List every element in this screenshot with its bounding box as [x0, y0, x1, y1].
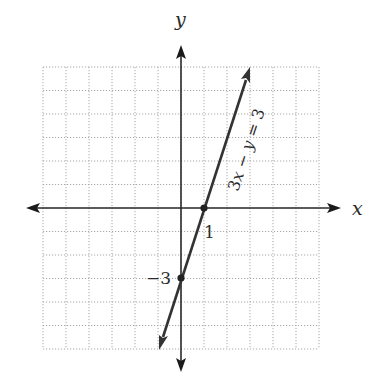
line-bottom-arrow-icon — [159, 335, 168, 350]
y-intercept-point — [177, 274, 184, 281]
x-axis: x — [26, 197, 363, 219]
y-axis-label: y — [174, 8, 186, 30]
y-axis: y — [174, 8, 186, 372]
x-axis-label: x — [352, 197, 363, 219]
x-intercept-label: 1 — [204, 222, 215, 242]
svg-text:3x − y = 3: 3x − y = 3 — [224, 106, 269, 193]
x-intercept-point — [200, 204, 207, 211]
y-intercept-label: −3 — [146, 268, 171, 288]
coordinate-plane: x y 1 −3 3x − y = 3 — [0, 0, 383, 388]
equation-rhs: = 3 — [240, 106, 269, 144]
equation-label: 3x − y = 3 — [224, 106, 269, 193]
